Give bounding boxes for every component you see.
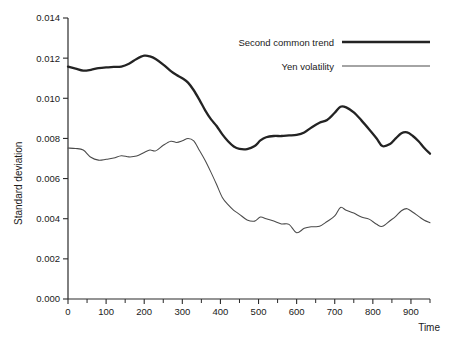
x-tick-label: 200 <box>136 306 152 317</box>
y-tick-label: 0.012 <box>36 53 60 64</box>
y-tick-label: 0.014 <box>36 12 60 23</box>
x-tick-label: 500 <box>251 306 267 317</box>
data-series <box>68 56 430 233</box>
x-tick-label: 100 <box>98 306 114 317</box>
x-tick-label: 0 <box>65 306 70 317</box>
axes <box>68 18 430 299</box>
y-axis-title: Standard deviation <box>13 142 24 225</box>
y-tick-label: 0.004 <box>36 213 60 224</box>
y-axis-ticks: 0.0000.0020.0040.0060.0080.0100.0120.014 <box>36 12 68 304</box>
series-line-yen-volatility <box>68 138 430 232</box>
x-tick-label: 300 <box>174 306 190 317</box>
y-tick-label: 0.006 <box>36 173 60 184</box>
y-tick-label: 0.008 <box>36 133 60 144</box>
y-tick-label: 0.002 <box>36 253 60 264</box>
x-tick-label: 700 <box>327 306 343 317</box>
series-line-second-common-trend <box>68 56 430 154</box>
legend-label-0: Second common trend <box>238 37 334 48</box>
x-tick-label: 400 <box>212 306 228 317</box>
x-tick-label: 900 <box>403 306 419 317</box>
x-axis-ticks: 0100200300400500600700800900 <box>65 299 430 317</box>
chart-legend: Second common trendYen volatility <box>238 37 430 72</box>
y-tick-label: 0.000 <box>36 293 60 304</box>
x-axis-title: Time <box>418 322 440 333</box>
line-chart: 0.0000.0020.0040.0060.0080.0100.0120.014… <box>0 0 449 342</box>
x-tick-label: 800 <box>365 306 381 317</box>
chart-figure: 0.0000.0020.0040.0060.0080.0100.0120.014… <box>0 0 449 342</box>
y-tick-label: 0.010 <box>36 93 60 104</box>
legend-label-1: Yen volatility <box>282 61 335 72</box>
x-tick-label: 600 <box>289 306 305 317</box>
